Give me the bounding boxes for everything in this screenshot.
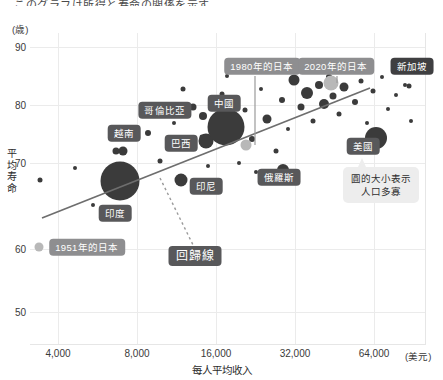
x-tick-32000: 32,000 <box>280 348 311 359</box>
label-regression-line[interactable]: 回歸線 <box>169 246 222 266</box>
size-legend-callout: 圓的大小表示 人口多寡 <box>343 167 419 203</box>
callout-pointer <box>358 158 366 167</box>
clipped-top-text: このグラフは所得と寿命の関係を示す <box>14 0 294 6</box>
y-tick-80: 80 <box>0 100 26 111</box>
label-japan-1951[interactable]: 1951年的日本 <box>49 239 125 256</box>
y-axis-title: 平均寿命 <box>6 148 18 194</box>
x-tick-16000: 16,000 <box>201 348 232 359</box>
label-japan-2020[interactable]: 2020年的日本 <box>298 58 374 75</box>
y-axis-unit: (歳) <box>12 22 28 36</box>
regression-line <box>42 88 370 218</box>
chart-root: このグラフは所得と寿命の関係を示す (歳) 平均寿命 (美元) 每人平均收入 9… <box>0 0 443 380</box>
label-brazil[interactable]: 巴西 <box>165 135 198 152</box>
label-india[interactable]: 印度 <box>99 205 132 222</box>
label-colombia[interactable]: 哥倫比亞 <box>138 102 191 119</box>
y-tick-70: 70 <box>0 158 26 169</box>
x-axis-unit: (美元) <box>405 349 431 363</box>
y-tick-90: 90 <box>0 42 26 53</box>
label-singapore[interactable]: 新加坡 <box>391 58 434 75</box>
label-indonesia[interactable]: 印尼 <box>190 178 223 195</box>
x-axis-title: 每人平均收入 <box>0 362 443 377</box>
label-china[interactable]: 中國 <box>208 95 241 112</box>
y-tick-50: 50 <box>0 307 26 318</box>
callout-line-2: 人口多寡 <box>351 185 411 198</box>
label-japan-1980[interactable]: 1980年的日本 <box>224 58 300 75</box>
x-tick-8000: 8,000 <box>124 348 149 359</box>
label-russia[interactable]: 俄羅斯 <box>258 169 301 186</box>
x-tick-4000: 4,000 <box>45 348 70 359</box>
x-tick-64000: 64,000 <box>359 348 390 359</box>
callout-line-1: 圓的大小表示 <box>351 172 411 185</box>
label-vietnam[interactable]: 越南 <box>108 125 141 142</box>
label-usa[interactable]: 美國 <box>347 138 380 155</box>
y-tick-60: 60 <box>0 244 26 255</box>
